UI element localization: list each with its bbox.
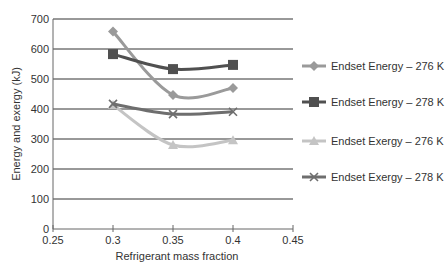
x-axis: 0.250.30.350.40.45 [42,225,303,246]
y-tick-label: 100 [31,193,49,205]
legend-label: Endset Exergy – 276 K [331,135,444,147]
legend-label: Endset Exergy – 278 K [331,171,444,183]
x-tick-label: 0.25 [42,234,63,246]
square-marker [309,97,319,107]
y-tick-label: 500 [31,73,49,85]
legend: Endset Energy – 276 KEndset Energy – 278… [302,60,445,183]
x-axis-title: Refrigerant mass fraction [116,250,239,262]
x-tick-label: 0.3 [105,234,120,246]
square-marker [108,49,118,59]
line-chart: 01002003004005006007000.250.30.350.40.45… [0,0,446,275]
y-axis-title: Energy and exergy (kJ) [10,67,22,181]
y-tick-label: 700 [31,13,49,25]
square-marker [168,64,178,74]
y-tick-label: 200 [31,163,49,175]
square-marker [228,60,238,70]
series-0 [108,27,238,100]
x-tick-label: 0.35 [162,234,183,246]
legend-label: Endset Energy – 278 K [331,96,445,108]
x-tick-label: 0.4 [225,234,240,246]
y-tick-label: 600 [31,43,49,55]
y-tick-label: 300 [31,133,49,145]
diamond-marker [228,83,238,93]
series-1 [108,49,238,74]
y-tick-label: 400 [31,103,49,115]
diamond-marker [309,61,319,71]
legend-label: Endset Energy – 276 K [331,60,445,72]
y-axis: 0100200300400500600700 [31,13,293,235]
x-tick-label: 0.45 [282,234,303,246]
